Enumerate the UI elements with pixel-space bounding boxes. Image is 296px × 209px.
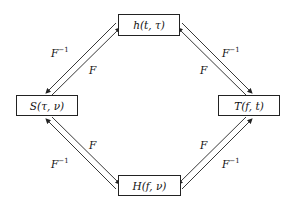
edge-label-bottom-left-inverse: F−1 xyxy=(51,157,69,170)
edge-label-top-right-inverse: F−1 xyxy=(222,46,240,59)
edge-label-bottom-right-inverse: F−1 xyxy=(222,157,240,170)
node-H-label: H(f, ν) xyxy=(133,180,167,192)
edge-label-bottom-left-forward: F xyxy=(89,139,96,151)
edge-label-top-left-inverse: F−1 xyxy=(51,46,69,59)
arrow-S-to-H xyxy=(52,117,120,184)
node-T-label: T(f, t) xyxy=(234,100,264,112)
edge-label-top-left-forward: F xyxy=(89,64,96,76)
node-H: H(f, ν) xyxy=(118,175,181,196)
arrow-H-to-S xyxy=(46,119,116,189)
edge-label-bottom-right-forward: F xyxy=(200,139,207,151)
arrow-H-to-T xyxy=(182,119,252,189)
node-S-label: S(τ, ν) xyxy=(30,100,64,112)
node-h: h(t, τ) xyxy=(118,14,180,36)
edge-label-top-right-forward: F xyxy=(200,64,207,76)
node-T: T(f, t) xyxy=(218,95,280,116)
node-S: S(τ, ν) xyxy=(16,95,78,116)
arrow-h-to-T xyxy=(182,23,252,93)
arrow-T-to-h xyxy=(178,28,246,95)
node-h-label: h(t, τ) xyxy=(133,19,165,31)
arrow-S-to-h xyxy=(52,28,120,95)
arrow-T-to-H xyxy=(178,117,246,184)
